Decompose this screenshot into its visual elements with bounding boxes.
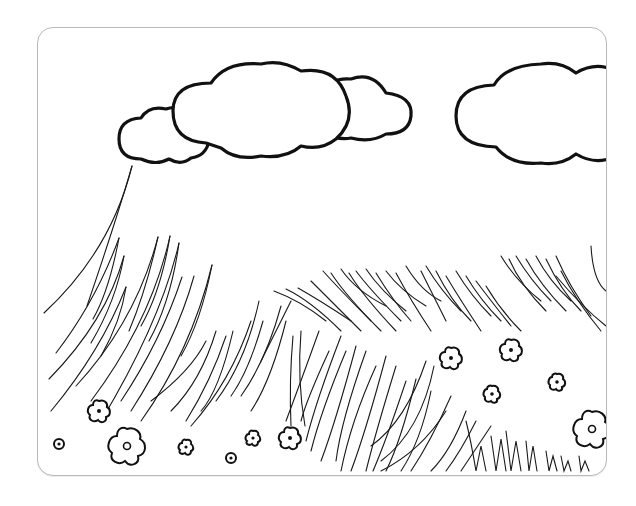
illustration-frame	[37, 27, 607, 476]
flower	[179, 440, 194, 455]
flower	[54, 439, 64, 449]
flower	[88, 400, 110, 422]
coloring-illustration	[37, 27, 607, 476]
flower	[484, 386, 501, 403]
grass-middle-field	[151, 301, 491, 471]
grass-bottom-right	[466, 421, 589, 471]
flower	[246, 431, 261, 446]
grass-right-hill	[274, 246, 606, 331]
flower	[500, 339, 522, 361]
flower	[226, 453, 236, 463]
grass-left-slope	[44, 166, 212, 421]
flower	[549, 374, 566, 391]
flower	[440, 347, 462, 369]
flower	[279, 427, 301, 449]
cloud-right	[456, 63, 607, 163]
cloud-large-center	[173, 63, 411, 158]
flower	[573, 411, 607, 448]
flower	[108, 428, 145, 465]
scene-title: Grass field coloring page	[0, 0, 1, 1]
